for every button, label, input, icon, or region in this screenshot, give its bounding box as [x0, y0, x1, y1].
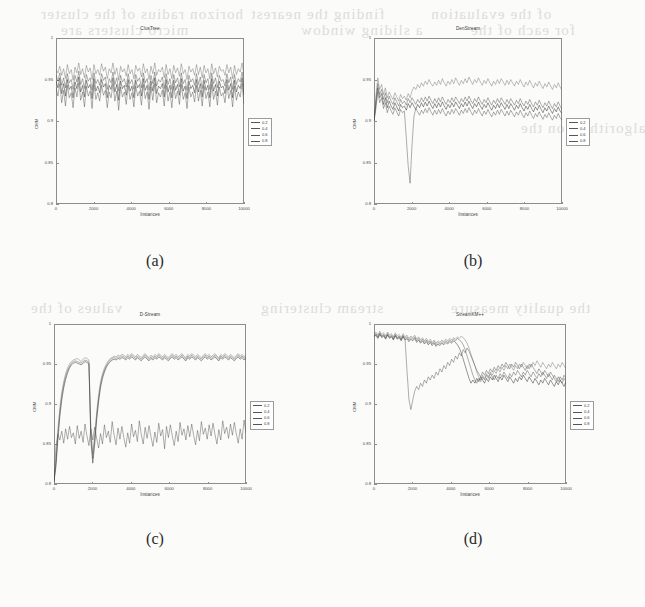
legend-swatch-icon-b-0: [569, 122, 578, 123]
legend-label-d-2: 0.6: [584, 415, 590, 421]
subfigure-panel-c: D-StreamCMMInstances0.80.850.90.95102000…: [28, 312, 254, 502]
legend-label-a-2: 0.6: [262, 132, 268, 138]
legend-label-d-3: 0.8: [584, 421, 590, 427]
legend-label-b-0: 0.2: [580, 120, 586, 126]
subfigure-caption-c: (c): [95, 530, 215, 548]
series-line-c-2: [54, 357, 246, 482]
series-line-d-1: [374, 333, 566, 383]
subfigure-caption-b: (b): [413, 252, 533, 270]
legend-label-a-1: 0.4: [262, 126, 268, 132]
legend-label-c-0: 0.2: [264, 403, 270, 409]
plot-lines-d: [348, 312, 574, 502]
legend-swatch-icon-b-1: [569, 128, 578, 129]
legend-b: 0.20.40.60.8: [566, 118, 590, 147]
legend-swatch-icon-d-2: [573, 418, 582, 419]
legend-swatch-icon-c-3: [253, 424, 262, 425]
legend-swatch-icon-d-0: [573, 405, 582, 406]
series-line-c-3: [54, 420, 246, 482]
legend-swatch-icon-a-2: [251, 135, 260, 136]
legend-item-c-3: 0.8: [252, 421, 272, 427]
legend-c: 0.20.40.60.8: [250, 401, 274, 430]
legend-item-d-3: 0.8: [572, 421, 592, 427]
legend-label-a-0: 0.2: [262, 120, 268, 126]
series-line-c-1: [54, 355, 246, 481]
legend-label-c-2: 0.6: [264, 415, 270, 421]
subfigure-panel-a: ClusTreeCMMInstances0.80.850.90.95102000…: [30, 26, 252, 222]
plot-lines-a: [30, 26, 252, 222]
plot-lines-c: [28, 312, 254, 502]
legend-label-d-1: 0.4: [584, 409, 590, 415]
subfigure-panel-b: DenStreamCMMInstances0.80.850.90.9510200…: [348, 26, 570, 222]
legend-label-a-3: 0.8: [262, 138, 268, 144]
legend-label-c-1: 0.4: [264, 409, 270, 415]
legend-swatch-icon-b-2: [569, 135, 578, 136]
legend-label-c-3: 0.8: [264, 421, 270, 427]
legend-swatch-icon-a-0: [251, 122, 260, 123]
series-line-d-3: [374, 334, 566, 410]
legend-label-b-2: 0.6: [580, 132, 586, 138]
subfigure-caption-d: (d): [413, 530, 533, 548]
legend-label-b-1: 0.4: [580, 126, 586, 132]
legend-swatch-icon-c-1: [253, 412, 262, 413]
legend-swatch-icon-b-3: [569, 141, 578, 142]
legend-d: 0.20.40.60.8: [570, 401, 594, 430]
legend-label-d-0: 0.2: [584, 403, 590, 409]
series-line-d-2: [374, 334, 566, 386]
series-line-c-0: [54, 354, 246, 480]
legend-item-b-3: 0.8: [568, 138, 588, 144]
legend-swatch-icon-a-3: [251, 141, 260, 142]
series-line-a-0: [56, 63, 244, 80]
legend-swatch-icon-c-0: [253, 405, 262, 406]
legend-label-b-3: 0.8: [580, 138, 586, 144]
plot-lines-b: [348, 26, 570, 222]
legend-swatch-icon-c-2: [253, 418, 262, 419]
legend-item-a-3: 0.8: [250, 138, 270, 144]
legend-swatch-icon-d-3: [573, 424, 582, 425]
legend-a: 0.20.40.60.8: [248, 118, 272, 147]
legend-swatch-icon-a-1: [251, 128, 260, 129]
series-line-b-1: [374, 84, 562, 121]
subfigure-panel-d: StreamKM++CMMInstances0.80.850.90.951020…: [348, 312, 574, 502]
series-line-b-2: [374, 88, 562, 121]
subfigure-caption-a: (a): [95, 252, 215, 270]
legend-swatch-icon-d-1: [573, 412, 582, 413]
